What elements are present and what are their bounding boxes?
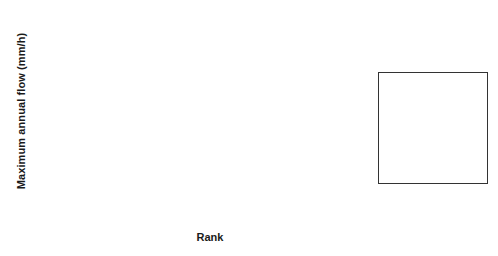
y-axis-label: Maximum annual flow (mm/h) <box>15 16 27 206</box>
plot-svg <box>57 24 357 203</box>
legend-box <box>378 72 488 184</box>
plot-area <box>57 24 357 203</box>
x-axis-label: Rank <box>150 231 270 243</box>
chart-figure: Maximum annual flow (mm/h) Rank <box>0 0 498 256</box>
